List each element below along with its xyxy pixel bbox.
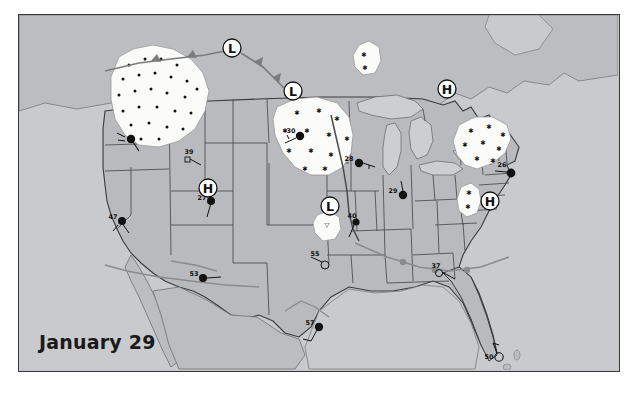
low-pressure-central-plains: L [321, 197, 339, 215]
station-temp-oklahoma: 55 [311, 250, 320, 258]
station-temp-wisconsin: 29 [389, 187, 398, 195]
high-pressure-great-basin: H [199, 179, 217, 197]
svg-text:✱: ✱ [328, 151, 333, 159]
svg-text:✱: ✱ [334, 115, 339, 123]
weather-map-canvas: ✱ ✱ ✱✱ ✱ ✱✱ ✱✱ ✱✱ ✱ ✱✱ [19, 15, 618, 370]
station-temp-north-dakota: 30 [287, 127, 296, 135]
pressure-label-l-1: L [228, 41, 236, 56]
svg-text:✱: ✱ [468, 127, 473, 135]
map-date-label: January 29 [39, 331, 156, 353]
low-pressure-northern-plains: L [284, 82, 302, 100]
island-1 [503, 364, 511, 370]
svg-text:✱: ✱ [480, 139, 485, 147]
weather-map-figure: ✱ ✱ ✱✱ ✱ ✱✱ ✱✱ ✱✱ ✱ ✱✱ [18, 14, 620, 372]
station-temp-northern-california: 47 [109, 213, 118, 221]
svg-text:✱: ✱ [286, 147, 291, 155]
station-temp-new-england: 26 [498, 161, 507, 169]
precip-appalachians: ✱ ✱ [457, 183, 481, 217]
station-temp-minnesota: 28 [345, 155, 354, 163]
svg-text:✱: ✱ [326, 131, 331, 139]
station-temp-georgia: 37 [432, 262, 441, 270]
svg-text:✱: ✱ [361, 51, 366, 59]
high-pressure-quebec: H [438, 80, 456, 98]
svg-text:✱: ✱ [344, 135, 349, 143]
svg-text:✱: ✱ [302, 165, 307, 173]
pressure-label-h-2: H [442, 82, 452, 97]
station-temp-idaho: 39 [185, 148, 194, 156]
pressure-label-l-2: L [289, 84, 297, 99]
svg-text:✱: ✱ [462, 141, 467, 149]
svg-text:✱: ✱ [316, 107, 321, 115]
station-temp-texas: 57 [306, 319, 315, 327]
station-temp-kansas: 40 [348, 212, 357, 220]
svg-text:▽: ▽ [325, 221, 330, 229]
svg-text:✱: ✱ [500, 131, 505, 139]
high-pressure-mid-atlantic: H [481, 192, 499, 210]
svg-text:✱: ✱ [304, 127, 309, 135]
svg-text:✱: ✱ [294, 109, 299, 117]
svg-text:✱: ✱ [490, 157, 495, 165]
svg-text:✱: ✱ [322, 165, 327, 173]
svg-text:✱: ✱ [308, 147, 313, 155]
svg-text:✱: ✱ [496, 145, 501, 153]
pressure-label-l-3: L [326, 199, 334, 214]
svg-text:✱: ✱ [486, 123, 491, 131]
island-2 [514, 350, 520, 360]
svg-text:✱: ✱ [465, 203, 470, 211]
svg-text:✱: ✱ [466, 189, 471, 197]
svg-text:✱: ✱ [362, 64, 367, 72]
low-pressure-pacific-northwest: L [223, 39, 241, 57]
svg-text:✱: ✱ [474, 155, 479, 163]
pressure-label-h-3: H [485, 194, 495, 209]
station-temp-southern-arizona: 53 [190, 270, 199, 278]
pressure-label-h-1: H [203, 181, 213, 196]
station-temp-florida: 50 [485, 353, 494, 361]
